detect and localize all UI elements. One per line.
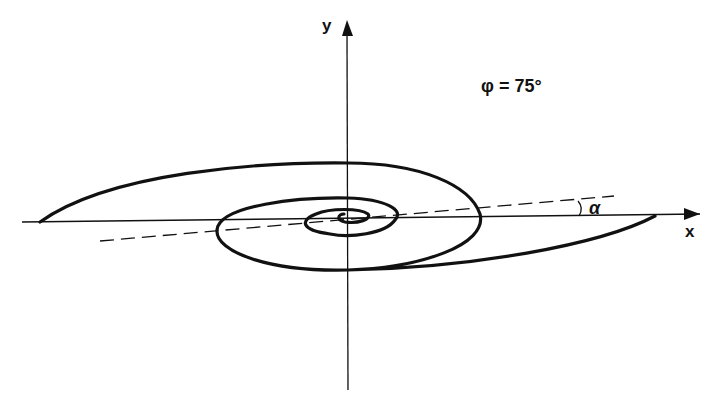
x-axis-arrowhead	[684, 208, 700, 220]
alpha-angle-arc	[578, 201, 581, 216]
phi-angle-label: φ = 75°	[481, 77, 542, 95]
y-axis-label: y	[322, 17, 331, 34]
y-axis-arrowhead	[342, 20, 353, 36]
spiral-figure	[0, 0, 716, 413]
y-axis	[347, 34, 348, 390]
x-axis-label: x	[685, 223, 694, 240]
alpha-angle-label: α	[589, 199, 600, 217]
